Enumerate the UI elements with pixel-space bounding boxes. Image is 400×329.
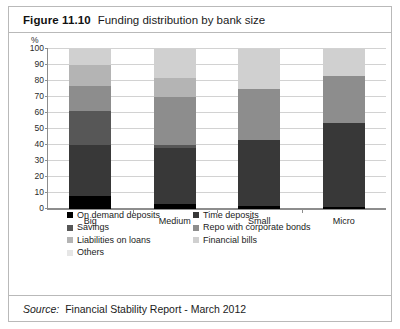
y-axis-tick-label: 90 (35, 59, 44, 69)
y-axis-tick-label: 30 (35, 155, 44, 165)
bar-segment (69, 65, 111, 86)
legend-item[interactable]: Financial bills (193, 234, 353, 247)
legend-swatch-icon (67, 225, 73, 231)
y-axis-tick-label: 40 (35, 139, 44, 149)
bar-segment (154, 97, 196, 145)
bar-segment (238, 49, 280, 89)
chart-legend: On demand depositsTime depositsSavingsRe… (67, 209, 367, 259)
legend-item[interactable]: Savings (67, 222, 193, 235)
y-axis-tick-label: 60 (35, 107, 44, 117)
bar-big (69, 49, 111, 209)
y-axis-tick-label: 80 (35, 75, 44, 85)
legend-item[interactable]: Liabilities on loans (67, 234, 193, 247)
legend-item[interactable]: Time deposits (193, 209, 353, 222)
bar-medium (154, 49, 196, 209)
bars-layer (48, 49, 386, 209)
bar-segment (69, 111, 111, 145)
legend-item[interactable]: Others (67, 247, 193, 260)
y-axis-tick-label: 0 (39, 203, 44, 213)
legend-item-label: On demand deposits (77, 211, 160, 220)
source-text: Financial Stability Report - March 2012 (65, 303, 246, 315)
bar-micro (323, 49, 365, 209)
legend-item-label: Savings (77, 223, 109, 232)
bar-segment (154, 145, 196, 148)
y-axis-tick-label: 70 (35, 91, 44, 101)
legend-swatch-icon (67, 237, 73, 243)
bar-small (238, 49, 280, 209)
bar-segment (238, 140, 280, 206)
figure-title-bar: Figure 11.10 Funding distribution by ban… (9, 7, 391, 33)
bar-segment (154, 78, 196, 97)
bar-segment (69, 145, 111, 196)
legend-swatch-icon (193, 237, 199, 243)
legend-item-label: Financial bills (203, 236, 257, 245)
y-axis-tick-label: 50 (35, 123, 44, 133)
figure-number: Figure 11.10 (23, 14, 91, 26)
bar-segment (154, 148, 196, 204)
legend-swatch-icon (193, 212, 199, 218)
figure-frame: Figure 11.10 Funding distribution by ban… (8, 6, 392, 322)
bar-segment (323, 76, 365, 122)
source-label: Source: (23, 303, 59, 315)
bar-segment (154, 49, 196, 78)
legend-item-label: Repo with corporate bonds (203, 223, 311, 232)
source-bar: Source: Financial Stability Report - Mar… (9, 295, 391, 321)
figure-caption: Funding distribution by bank size (98, 14, 266, 26)
y-axis-tick-label: 20 (35, 171, 44, 181)
bar-segment (69, 49, 111, 65)
bar-segment (323, 49, 365, 76)
legend-item[interactable]: Repo with corporate bonds (193, 222, 353, 235)
plot-area: 0102030405060708090100 BigMediumSmallMic… (47, 49, 386, 210)
bar-segment (323, 123, 365, 208)
legend-item-label: Others (77, 248, 104, 257)
y-axis-tick-label: 10 (35, 187, 44, 197)
bar-segment (238, 89, 280, 140)
bar-segment (69, 86, 111, 112)
legend-item-label: Liabilities on loans (77, 236, 151, 245)
legend-swatch-icon (193, 225, 199, 231)
legend-item-label: Time deposits (203, 211, 259, 220)
legend-swatch-icon (67, 212, 73, 218)
figure-page: Figure 11.10 Funding distribution by ban… (0, 0, 400, 329)
legend-item[interactable]: On demand deposits (67, 209, 193, 222)
legend-swatch-icon (67, 250, 73, 256)
bar-segment (69, 196, 111, 209)
y-axis-tick-label: 100 (30, 43, 44, 53)
